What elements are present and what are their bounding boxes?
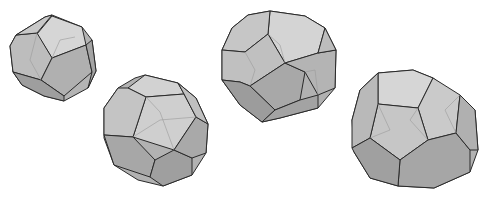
polyhedron-4 bbox=[352, 70, 478, 188]
polyhedra-scene bbox=[0, 0, 484, 197]
polyhedron-1 bbox=[10, 15, 96, 101]
polyhedron-2 bbox=[104, 75, 208, 186]
polyhedron-3 bbox=[222, 11, 336, 122]
